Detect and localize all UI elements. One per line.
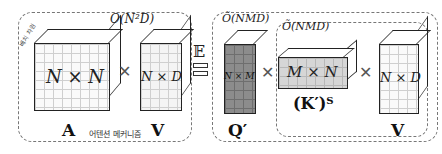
equals-bar-top (193, 63, 208, 68)
matrix-v1-name: V (151, 120, 164, 140)
matrix-v2-dims: N × D (380, 70, 421, 85)
matrix-a-name: A (62, 120, 75, 140)
matrix-k-dims: M × N (287, 63, 338, 81)
multiply-icon-3: ✕ (359, 63, 372, 82)
matrix-a-dims: N × N (46, 66, 104, 87)
matrix-k-top (278, 48, 355, 57)
matrix-q-name: Q′ (228, 120, 247, 140)
multiply-icon: ✕ (118, 62, 131, 81)
matrix-a-side (109, 15, 121, 97)
right-outer-complexity: Õ(NMD) (222, 12, 269, 25)
equals-bar-bottom (193, 71, 208, 76)
expectation-symbol: 𝔼 (193, 42, 205, 61)
matrix-q-dims: N × M (224, 71, 254, 81)
right-inner-complexity: Õ(NMD) (282, 20, 329, 33)
matrix-v1-side (181, 15, 191, 97)
matrix-v1-dims: N × D (141, 69, 182, 84)
attention-caption: 어텐션 메커니즘 (89, 128, 141, 139)
matrix-k-name: (K′)ᵀ (293, 94, 334, 113)
matrix-v2-name: V (391, 120, 404, 140)
multiply-icon-2: ✕ (261, 63, 274, 82)
matrix-v2-side (418, 16, 428, 100)
